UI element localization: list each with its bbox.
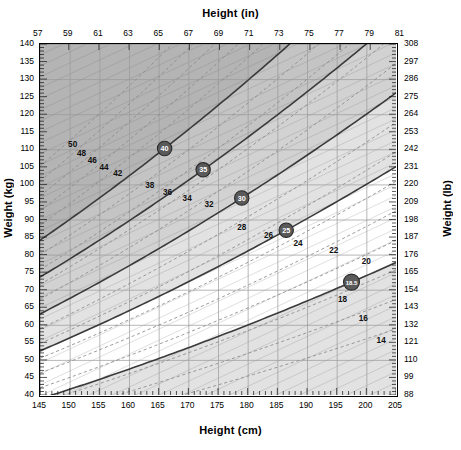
x-tick-cm-175: 175 [204,400,230,410]
bmi-label-14: 14 [377,336,387,345]
y-tick-kg-65: 65 [8,301,34,311]
x-tick-cm-150: 150 [56,400,82,410]
x-tick-cm-195: 195 [323,400,349,410]
x-tick-cm-165: 165 [145,400,171,410]
bmi-chart: Height (in) Height (cm) Weight (kg) Weig… [0,0,461,450]
y-tick-kg-115: 115 [8,126,34,136]
x-tick-in-73: 73 [266,28,292,38]
y-tick-kg-45: 45 [8,371,34,381]
bmi-label-20: 20 [362,257,372,266]
right-axis-title: Weight (lb) [441,180,453,237]
bmi-label-32: 32 [205,200,215,209]
y-tick-lb-275: 275 [404,91,430,101]
y-tick-kg-70: 70 [8,284,34,294]
y-tick-lb-253: 253 [404,126,430,136]
y-tick-lb-198: 198 [404,214,430,224]
y-tick-lb-231: 231 [404,161,430,171]
y-tick-lb-154: 154 [404,284,430,294]
bmi-label-42: 42 [113,169,123,178]
bmi-label-16: 16 [359,314,369,323]
y-tick-kg-95: 95 [8,196,34,206]
x-tick-in-75: 75 [296,28,322,38]
bmi-label-38: 38 [145,181,155,190]
y-tick-kg-60: 60 [8,319,34,329]
x-tick-in-65: 65 [145,28,171,38]
bmi-marker-label-25: 25 [282,226,290,235]
bmi-marker-label-35: 35 [199,165,207,174]
bmi-label-24: 24 [294,239,304,248]
y-tick-lb-264: 264 [404,108,430,118]
x-tick-in-63: 63 [115,28,141,38]
y-tick-kg-100: 100 [8,178,34,188]
y-tick-lb-121: 121 [404,336,430,346]
y-tick-lb-220: 220 [404,178,430,188]
y-tick-kg-55: 55 [8,336,34,346]
bmi-label-28: 28 [237,223,247,232]
x-tick-cm-145: 145 [26,400,52,410]
x-tick-cm-160: 160 [115,400,141,410]
y-tick-kg-135: 135 [8,56,34,66]
x-tick-cm-190: 190 [293,400,319,410]
x-tick-in-81: 81 [386,28,412,38]
y-tick-kg-130: 130 [8,73,34,83]
y-tick-kg-125: 125 [8,91,34,101]
bmi-marker-label-18.5: 18.5 [346,280,358,286]
y-tick-kg-50: 50 [8,354,34,364]
y-tick-lb-132: 132 [404,319,430,329]
x-tick-in-77: 77 [326,28,352,38]
bmi-label-26: 26 [264,231,274,240]
bmi-label-46: 46 [88,156,98,165]
y-tick-kg-110: 110 [8,143,34,153]
y-tick-lb-88: 88 [404,389,430,399]
bmi-label-48: 48 [77,149,87,158]
y-tick-lb-165: 165 [404,266,430,276]
y-tick-kg-75: 75 [8,266,34,276]
y-tick-kg-105: 105 [8,161,34,171]
y-tick-kg-120: 120 [8,108,34,118]
y-tick-kg-40: 40 [8,389,34,399]
bmi-label-44: 44 [100,163,110,172]
x-tick-in-61: 61 [85,28,111,38]
x-tick-cm-170: 170 [174,400,200,410]
y-tick-lb-308: 308 [404,38,430,48]
x-tick-cm-155: 155 [85,400,111,410]
x-tick-cm-185: 185 [263,400,289,410]
y-tick-lb-110: 110 [404,354,430,364]
x-tick-in-57: 57 [25,28,51,38]
y-tick-lb-297: 297 [404,56,430,66]
x-tick-in-67: 67 [175,28,201,38]
x-tick-cm-180: 180 [234,400,260,410]
y-tick-kg-90: 90 [8,214,34,224]
bmi-label-22: 22 [329,246,339,255]
x-tick-in-69: 69 [206,28,232,38]
bmi-marker-label-40: 40 [161,144,169,153]
y-tick-lb-187: 187 [404,231,430,241]
x-tick-cm-200: 200 [352,400,378,410]
bmi-label-34: 34 [183,194,193,203]
bottom-axis-title: Height (cm) [0,424,461,436]
y-tick-lb-143: 143 [404,301,430,311]
y-tick-lb-242: 242 [404,143,430,153]
x-tick-cm-205: 205 [382,400,408,410]
y-tick-kg-85: 85 [8,231,34,241]
x-tick-in-59: 59 [55,28,81,38]
x-tick-in-71: 71 [236,28,262,38]
plot-area: 5048464442383634322826242220181614403530… [39,43,398,397]
top-axis-title: Height (in) [0,7,461,19]
bmi-label-36: 36 [163,188,173,197]
bmi-marker-label-30: 30 [238,194,246,203]
y-tick-lb-209: 209 [404,196,430,206]
x-tick-in-79: 79 [356,28,382,38]
y-tick-lb-99: 99 [404,371,430,381]
bmi-curves-svg: 5048464442383634322826242220181614403530… [40,44,396,395]
y-tick-kg-80: 80 [8,249,34,259]
y-tick-lb-286: 286 [404,73,430,83]
y-tick-lb-176: 176 [404,249,430,259]
y-tick-kg-140: 140 [8,38,34,48]
bmi-label-18: 18 [338,295,348,304]
